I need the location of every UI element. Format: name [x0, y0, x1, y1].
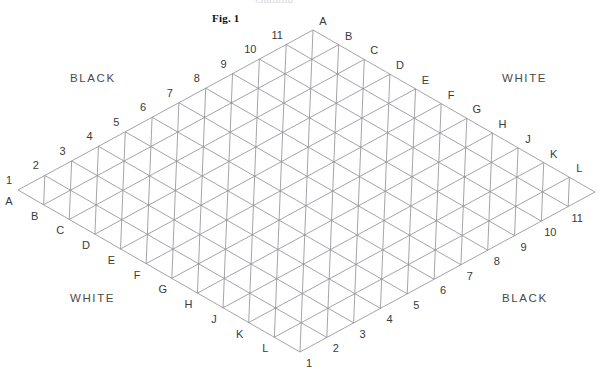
- edge-label-ll-D: D: [82, 239, 90, 251]
- edge-label-lr-1: 1: [306, 357, 312, 369]
- edge-label-ul-10: 10: [244, 43, 256, 55]
- edge-label-ll-C: C: [56, 224, 64, 236]
- edge-label-ur-K: K: [550, 148, 557, 160]
- edge-label-ul-6: 6: [140, 101, 146, 113]
- edge-label-ul-2: 2: [33, 159, 39, 171]
- edge-label-ul-4: 4: [86, 130, 92, 142]
- edge-label-lr-11: 11: [571, 212, 582, 224]
- edge-label-ll-B: B: [31, 210, 38, 222]
- edge-label-ur-C: C: [370, 44, 378, 56]
- edge-label-ll-K: K: [236, 328, 243, 340]
- edge-label-ur-A: A: [319, 15, 326, 27]
- edge-label-ur-L: L: [576, 162, 582, 174]
- edge-label-ul-3: 3: [60, 145, 66, 157]
- triangular-grid-board: [0, 0, 615, 371]
- edge-label-ll-A: A: [5, 195, 12, 207]
- edge-label-ur-E: E: [422, 74, 429, 86]
- edge-label-ll-J: J: [211, 313, 217, 325]
- edge-label-lr-2: 2: [333, 342, 339, 354]
- edge-label-lr-9: 9: [520, 241, 526, 253]
- edge-label-ul-7: 7: [167, 87, 173, 99]
- edge-label-ll-F: F: [134, 269, 141, 281]
- edge-label-ur-D: D: [396, 59, 404, 71]
- edge-label-ur-H: H: [498, 118, 506, 130]
- edge-label-ul-1: 1: [6, 174, 12, 186]
- edge-label-lr-10: 10: [544, 226, 556, 238]
- edge-label-lr-5: 5: [413, 299, 419, 311]
- edge-label-lr-4: 4: [386, 313, 392, 325]
- edge-label-ll-L: L: [262, 342, 268, 354]
- edge-label-lr-3: 3: [360, 328, 366, 340]
- edge-label-ur-F: F: [448, 89, 455, 101]
- edge-label-lr-7: 7: [467, 270, 473, 282]
- edge-label-lr-6: 6: [440, 284, 446, 296]
- edge-label-ll-H: H: [184, 298, 192, 310]
- figure-stage: Gamma Fig. 1 BLACKWHITEWHITEBLACK 123456…: [0, 0, 615, 371]
- edge-label-ul-8: 8: [194, 72, 200, 84]
- edge-label-ur-J: J: [525, 133, 531, 145]
- region-label-white-1: WHITE: [502, 72, 547, 84]
- edge-label-ur-B: B: [345, 30, 352, 42]
- edge-label-lr-8: 8: [494, 255, 500, 267]
- edge-label-ll-G: G: [159, 283, 168, 295]
- region-label-black-3: BLACK: [502, 292, 548, 304]
- figure-caption: Fig. 1: [212, 12, 239, 24]
- edge-label-ul-9: 9: [220, 58, 226, 70]
- edge-label-ul-11: 11: [271, 29, 282, 41]
- edge-label-ll-E: E: [108, 254, 115, 266]
- region-label-black-0: BLACK: [70, 72, 116, 84]
- region-label-white-2: WHITE: [70, 292, 115, 304]
- edge-label-ur-G: G: [473, 103, 482, 115]
- edge-label-ul-5: 5: [113, 116, 119, 128]
